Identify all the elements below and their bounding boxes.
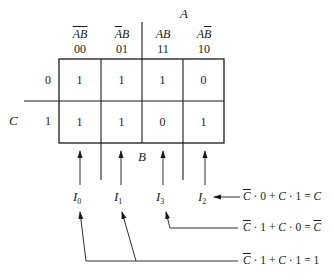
cell-r0-c0: 1: [59, 59, 100, 101]
cell-r1-c1: 1: [101, 101, 142, 143]
variable-c-label: C: [9, 113, 18, 129]
cell-r0-c3: 0: [183, 59, 224, 101]
row-label-0: 0: [45, 73, 51, 88]
column-header-00: AB00: [59, 27, 101, 56]
eq-I2: C · 0 + C · 1 = C: [243, 190, 321, 202]
eq-I3: C · 1 + C · 0 = C: [243, 221, 321, 233]
cell-r0-c2: 1: [142, 59, 183, 101]
input-label-i2: I2: [198, 189, 206, 206]
row-label-1: 1: [45, 114, 51, 129]
cell-r1-c0: 1: [59, 101, 100, 143]
cell-r1-c3: 1: [183, 101, 224, 143]
column-header-10: AB10: [183, 27, 225, 56]
eq-I0-I1: C · 1 + C · 1 = 1: [243, 254, 319, 266]
cell-r1-c2: 0: [142, 101, 183, 143]
cell-r0-c1: 1: [101, 59, 142, 101]
input-label-i0: I0: [73, 189, 81, 206]
column-header-11: AB11: [142, 27, 184, 56]
input-label-i1: I1: [114, 189, 122, 206]
column-header-01: AB01: [101, 27, 143, 56]
variable-b-label: B: [138, 149, 146, 165]
input-label-i3: I3: [156, 189, 164, 206]
variable-a-label: A: [180, 6, 188, 22]
